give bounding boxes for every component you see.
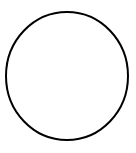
canvas-background <box>0 0 136 153</box>
circle-shape-svg <box>0 0 136 153</box>
drawing-canvas <box>0 0 136 153</box>
